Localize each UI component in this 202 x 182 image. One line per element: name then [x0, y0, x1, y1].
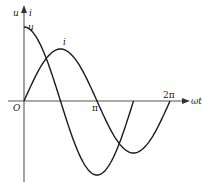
tick-label-2pi: 2π [163, 90, 175, 100]
curve-label-i: i [63, 37, 66, 47]
y-axis-arrow-icon [21, 5, 27, 13]
x-axis-arrow-icon [182, 98, 190, 104]
waveform-diagram: u i u i O π 2π ωt [0, 0, 202, 182]
x-axis-label-omega-t: ωt [191, 96, 202, 106]
y-axis-label-i: i [29, 8, 32, 18]
origin-label: O [13, 103, 21, 113]
curve-label-u: u [28, 22, 34, 32]
y-axis-label-u: u [13, 8, 19, 18]
tick-label-pi: π [92, 103, 98, 113]
